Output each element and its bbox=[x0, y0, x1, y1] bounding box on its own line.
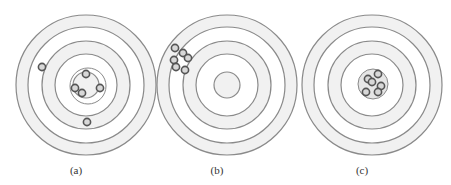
target-panel-a bbox=[16, 15, 156, 155]
bullet-hole-icon bbox=[171, 44, 178, 51]
panel-caption: (b) bbox=[197, 164, 237, 176]
bullet-hole-icon bbox=[374, 70, 381, 77]
bullet-hole-icon bbox=[82, 70, 89, 77]
bullet-hole-icon bbox=[184, 54, 191, 61]
bullet-hole-icon bbox=[172, 63, 179, 70]
bullet-hole-icon bbox=[38, 63, 45, 70]
bullet-hole-icon bbox=[374, 88, 381, 95]
bullet-hole-icon bbox=[362, 88, 369, 95]
bullet-hole-icon bbox=[170, 56, 177, 63]
target-panel-b bbox=[157, 15, 297, 155]
bullet-hole-icon bbox=[368, 78, 375, 85]
bullet-hole-icon bbox=[78, 89, 85, 96]
bullet-hole-icon bbox=[96, 84, 103, 91]
target-diagram bbox=[0, 0, 451, 185]
target-ring-5 bbox=[214, 72, 240, 98]
bullet-hole-icon bbox=[181, 66, 188, 73]
panel-caption: (a) bbox=[56, 164, 96, 176]
bullet-hole-icon bbox=[71, 84, 78, 91]
panel-caption: (c) bbox=[342, 164, 382, 176]
bullet-hole-icon bbox=[83, 118, 90, 125]
target-panel-c bbox=[302, 15, 442, 155]
